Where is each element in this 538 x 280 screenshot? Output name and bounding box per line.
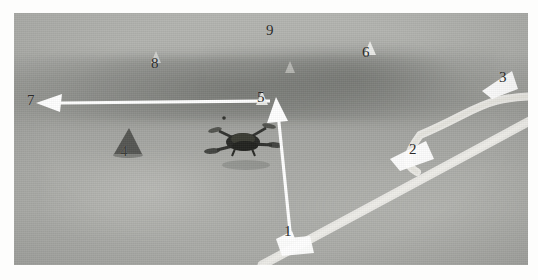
annotation-label-1: 1: [284, 224, 292, 239]
annotation-label-3: 3: [499, 70, 507, 85]
annotation-label-2: 2: [409, 142, 417, 157]
annotation-label-6: 6: [362, 45, 370, 60]
figure-canvas: 1 2 3 4 5 6 7 8 9: [0, 0, 538, 280]
annotation-label-4: 4: [120, 144, 128, 159]
vignette-overlay: [14, 13, 528, 265]
annotation-label-7: 7: [27, 93, 35, 108]
annotation-label-9: 9: [266, 23, 274, 38]
annotation-label-8: 8: [151, 56, 159, 71]
annotation-label-5: 5: [257, 90, 265, 105]
aerial-photograph: [14, 13, 528, 265]
